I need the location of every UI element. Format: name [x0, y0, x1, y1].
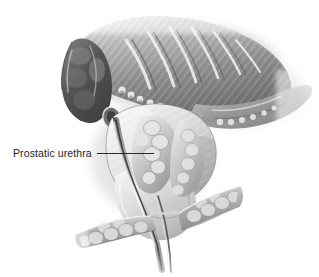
anatomy-illustration: [0, 0, 319, 277]
leader-line-prostatic-urethra: [97, 153, 154, 154]
callout-prostatic-urethra[interactable]: Prostatic urethra: [13, 147, 154, 159]
label-prostatic-urethra: Prostatic urethra: [13, 147, 92, 159]
illustration-figure: Prostatic urethra: [0, 0, 319, 277]
